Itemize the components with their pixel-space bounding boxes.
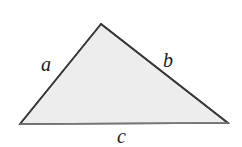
side-label-a: a (41, 54, 51, 74)
triangle-figure: a b c (0, 0, 242, 147)
side-label-b: b (163, 50, 173, 70)
side-label-c: c (117, 126, 126, 146)
